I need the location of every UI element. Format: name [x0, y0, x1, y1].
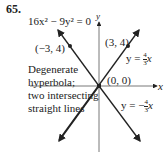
equation: 16x² − 9y² = 0 [28, 15, 91, 27]
point-label-3-4: (3, 4) [105, 36, 129, 48]
point-neg3-4 [68, 44, 72, 48]
y-axis-label: y [96, 10, 100, 22]
problem-number: 65. [6, 3, 21, 15]
line-label-negative: y = −43x [121, 99, 153, 114]
description-line-3: two intersecting [28, 89, 99, 101]
line-label-positive: y = 43x [126, 52, 152, 67]
point-origin [97, 84, 101, 88]
point-label-origin: (0, 0) [107, 74, 131, 86]
description-line-2: hyperbola; [28, 76, 75, 88]
x-axis-label: x [158, 80, 163, 92]
description-line-1: Degenerate [28, 63, 78, 75]
point-label-neg3-4: (−3, 4) [35, 42, 65, 54]
description-line-4: straight lines [28, 102, 85, 114]
